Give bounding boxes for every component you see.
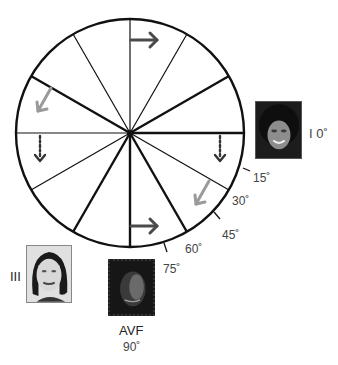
center-dot (127, 130, 133, 136)
spoke-120 (73, 133, 130, 232)
lead-I-photo (255, 101, 302, 159)
spoke-30 (130, 133, 229, 190)
thin-spokes (16, 19, 229, 190)
lead-III-photo (26, 245, 72, 303)
spoke-150 (31, 133, 130, 190)
tick-15 (243, 168, 250, 171)
face-portrait-icon (110, 261, 153, 314)
lead-I-angle-label: I 0˚ (309, 127, 328, 140)
spoke-210 (31, 76, 130, 133)
tick-45 (214, 212, 220, 219)
degree-label-75: 75˚ (163, 263, 180, 275)
spoke-300 (130, 34, 187, 133)
degree-label-30: 30˚ (232, 195, 249, 207)
degree-label-15: 15˚ (253, 172, 270, 184)
spoke-330 (130, 76, 229, 133)
lead-aVF-photo (108, 259, 155, 316)
hexaxial-diagram: I 0˚ 15˚ 30˚ 45˚ 60˚ 75˚ III AVF 90˚ (0, 0, 338, 365)
lower-right-arrow-icon (195, 181, 209, 204)
tick-75 (164, 243, 167, 252)
bottom-right-arrow-icon (131, 219, 157, 233)
face-portrait-icon (256, 102, 301, 158)
spoke-240 (73, 34, 130, 133)
face-portrait-icon (27, 246, 71, 302)
upper-left-arrow-icon (37, 88, 51, 111)
spoke-60 (130, 133, 187, 232)
right-dotted-down-arrow-icon (215, 136, 225, 161)
thick-spokes (31, 76, 244, 247)
lead-aVF-angle-label: 90˚ (123, 341, 140, 353)
degree-label-60: 60˚ (185, 243, 202, 255)
degree-label-45: 45˚ (222, 229, 239, 241)
left-dotted-down-arrow-icon (35, 136, 45, 161)
lead-wheel (0, 0, 338, 365)
lead-aVF-label: AVF (119, 324, 143, 337)
lead-III-label: III (10, 270, 21, 283)
top-right-arrow-icon (131, 33, 157, 47)
